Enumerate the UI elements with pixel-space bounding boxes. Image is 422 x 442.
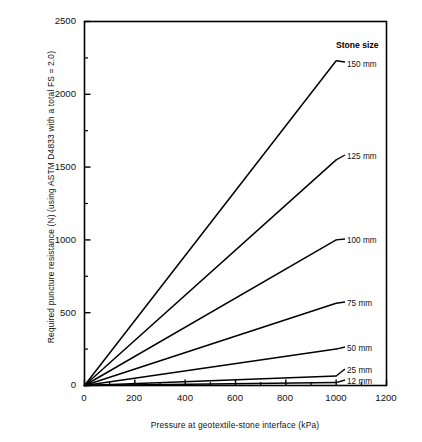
- y-tick-label-0: 0: [30, 379, 76, 390]
- x-tick-label-1200: 1200: [363, 392, 409, 403]
- x-tick-label-200: 200: [111, 392, 157, 403]
- plot-frame: [85, 22, 387, 386]
- x-tick-label-600: 600: [212, 392, 258, 403]
- y-tick-label-2500: 2500: [30, 15, 76, 26]
- leader-line-100mm: [336, 239, 345, 240]
- x-tick-label-800: 800: [262, 392, 308, 403]
- series-label-50mm: 50 mm: [347, 344, 372, 353]
- y-axis-title: Required puncture resistance (N) (using …: [46, 27, 56, 367]
- series-label-150mm: 150 mm: [347, 60, 377, 69]
- x-tick-label-1000: 1000: [313, 392, 359, 403]
- x-tick-label-0: 0: [61, 392, 107, 403]
- legend-title: Stone size: [336, 40, 379, 50]
- chart-figure: 2500 2000 1500 1000 500 0 0 200 400 600 …: [0, 0, 422, 442]
- x-axis-title: Pressure at geotextile-stone interface (…: [84, 420, 386, 430]
- series-label-75mm: 75 mm: [347, 299, 372, 308]
- series-label-100mm: 100 mm: [347, 236, 377, 245]
- series-label-125mm: 125 mm: [347, 152, 377, 161]
- series-label-25mm: 25 mm: [347, 366, 372, 375]
- x-tick-label-400: 400: [162, 392, 208, 403]
- series-label-12mm: 12 mm: [347, 377, 372, 386]
